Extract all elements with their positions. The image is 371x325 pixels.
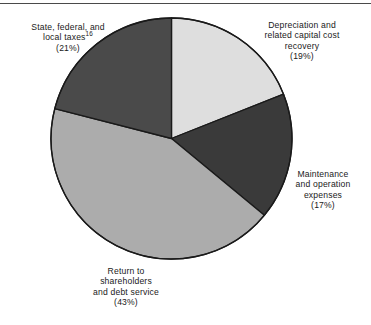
footnote-marker: 16 (86, 31, 93, 38)
slice-label-maintenance: Maintenance and operation expenses (17%) (278, 169, 368, 211)
slice-label-return-to-shareholders: Return to shareholders and debt service … (62, 266, 190, 308)
slice-label-line: expenses (278, 190, 368, 200)
slice-label-line: Maintenance (278, 169, 368, 179)
slice-label-percent: (21%) (4, 43, 132, 53)
slice-label-text: local taxes (43, 32, 86, 42)
slice-label-percent: (17%) (278, 200, 368, 210)
slice-label-line: local taxes16 (4, 32, 132, 42)
slice-label-line: recovery (236, 41, 368, 51)
slice-label-percent: (19%) (236, 51, 368, 61)
slice-label-percent: (43%) (62, 297, 190, 307)
slice-label-state-federal-local-taxes: State, federal, and local taxes16 (21%) (4, 22, 132, 53)
slice-label-line: Return to (62, 266, 190, 276)
slice-label-depreciation: Depreciation and related capital cost re… (236, 20, 368, 62)
pie-chart-figure: State, federal, and local taxes16 (21%) … (0, 0, 371, 325)
slice-label-line: and operation (278, 179, 368, 189)
slice-label-line: related capital cost (236, 30, 368, 40)
slice-label-line: and debt service (62, 287, 190, 297)
slice-label-line: shareholders (62, 276, 190, 286)
slice-label-line: State, federal, and (4, 22, 132, 32)
slice-label-line: Depreciation and (236, 20, 368, 30)
